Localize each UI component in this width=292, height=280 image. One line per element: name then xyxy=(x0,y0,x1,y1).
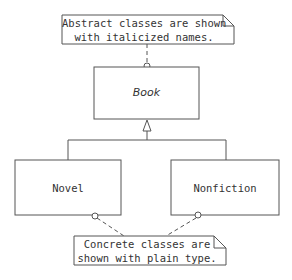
abstract-note-line-2: with italicized names. xyxy=(62,30,226,44)
abstract-note-text: Abstract classes are shown with italiciz… xyxy=(62,16,226,44)
abstract-note-line-1: Abstract classes are shown xyxy=(62,16,226,30)
concrete-note-connector-nonfiction xyxy=(166,218,196,236)
concrete-note-connector-novel xyxy=(97,218,124,236)
generalization-arrow-icon xyxy=(143,120,151,131)
class-name-book: Book xyxy=(94,86,199,100)
concrete-note-text: Concrete classes are shown with plain ty… xyxy=(74,237,220,265)
concrete-note-line-1: Concrete classes are xyxy=(74,237,220,251)
anchor-circle-icon xyxy=(195,212,201,218)
class-name-novel: Novel xyxy=(15,181,121,195)
class-name-nonfiction: Nonfiction xyxy=(171,181,279,195)
concrete-note-line-2: shown with plain type. xyxy=(74,251,220,265)
anchor-circle-icon xyxy=(92,213,98,219)
